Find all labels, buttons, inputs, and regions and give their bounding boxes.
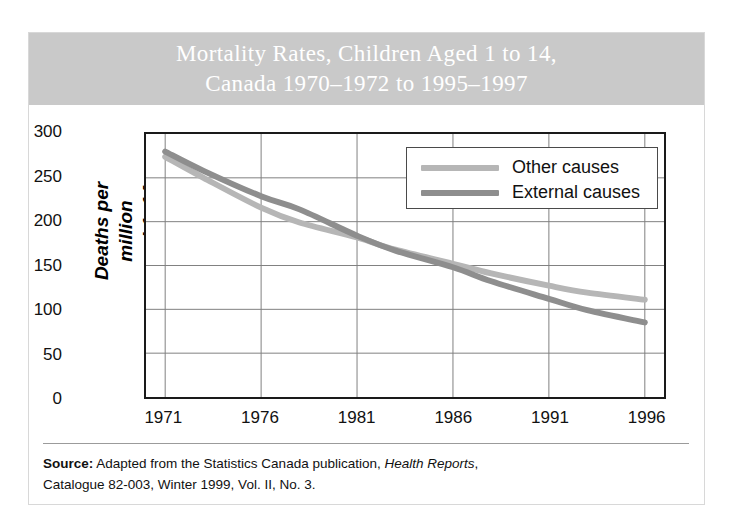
legend-label-other-causes: Other causes bbox=[512, 157, 619, 178]
figure-container: Mortality Rates, Children Aged 1 to 14, … bbox=[28, 32, 705, 505]
chart-area: Deaths per million aged 1–14 05010015020… bbox=[29, 105, 704, 435]
x-tick-1991: 1991 bbox=[531, 408, 569, 428]
x-tick-1996: 1996 bbox=[628, 408, 666, 428]
source-divider bbox=[43, 443, 689, 444]
source-label: Source: bbox=[43, 456, 93, 471]
source-note: Source: Adapted from the Statistics Cana… bbox=[43, 453, 683, 495]
legend-swatch-external-causes bbox=[421, 190, 499, 196]
y-tick-150: 150 bbox=[0, 256, 62, 276]
x-tick-1986: 1986 bbox=[434, 408, 472, 428]
x-tick-1971: 1971 bbox=[144, 408, 182, 428]
chart-title-line-2: Canada 1970–1972 to 1995–1997 bbox=[205, 69, 528, 99]
x-tick-1976: 1976 bbox=[241, 408, 279, 428]
y-tick-250: 250 bbox=[0, 167, 62, 187]
y-tick-50: 50 bbox=[0, 345, 62, 365]
y-tick-300: 300 bbox=[0, 122, 62, 142]
source-publication-name: Health Reports bbox=[384, 456, 474, 471]
chart-title-banner: Mortality Rates, Children Aged 1 to 14, … bbox=[29, 33, 704, 105]
source-line-2: Catalogue 82-003, Winter 1999, Vol. II, … bbox=[43, 474, 683, 495]
y-tick-0: 0 bbox=[0, 389, 62, 409]
chart-legend: Other causes External causes bbox=[406, 147, 658, 209]
x-tick-1981: 1981 bbox=[338, 408, 376, 428]
source-text-part-1: Adapted from the Statistics Canada publi… bbox=[96, 456, 380, 471]
legend-item-external-causes: External causes bbox=[421, 180, 657, 205]
source-text-part-2: , bbox=[475, 456, 479, 471]
y-tick-100: 100 bbox=[0, 300, 62, 320]
chart-title-line-1: Mortality Rates, Children Aged 1 to 14, bbox=[176, 39, 557, 69]
y-tick-200: 200 bbox=[0, 211, 62, 231]
legend-label-external-causes: External causes bbox=[512, 182, 640, 203]
legend-item-other-causes: Other causes bbox=[421, 155, 657, 180]
y-axis-title-line-1: Deaths per million bbox=[90, 156, 138, 306]
legend-swatch-other-causes bbox=[421, 165, 499, 171]
